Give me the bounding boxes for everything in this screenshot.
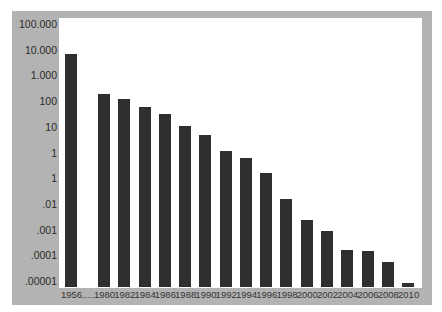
bar [402, 283, 414, 287]
bar [65, 54, 77, 287]
bar [199, 135, 211, 287]
bar [118, 99, 130, 287]
bar [362, 251, 374, 287]
x-tick-label: 2006 [358, 289, 379, 301]
x-tick-label: 1980 [94, 289, 115, 301]
x-tick-label: 2008 [378, 289, 399, 301]
x-tick-label: 2010 [398, 289, 419, 301]
x-tick-label: 2004 [337, 289, 358, 301]
y-tick-label: .001 [37, 224, 57, 236]
x-tick-label: 1998 [276, 289, 297, 301]
x-tick-label: 1988 [175, 289, 196, 301]
x-tick-label: 1984 [135, 289, 156, 301]
bar [179, 126, 191, 287]
bar [260, 173, 272, 287]
bar [220, 151, 232, 287]
x-tick-label: 1982 [114, 289, 135, 301]
bar [341, 250, 353, 287]
y-tick-label: 10.000 [25, 44, 57, 56]
bar [139, 107, 151, 287]
bar [280, 199, 292, 287]
x-tick-label: 2002 [317, 289, 338, 301]
y-tick-label: 100.000 [19, 18, 57, 30]
bar [159, 114, 171, 287]
y-tick-label: 10 [45, 121, 57, 133]
x-tick-label: 2000 [297, 289, 318, 301]
y-tick-label: 1.000 [31, 69, 57, 81]
y-tick-label: 100 [39, 95, 57, 107]
bar [98, 94, 110, 287]
y-tick-label: 1 [51, 172, 57, 184]
x-tick-label: 1990 [195, 289, 216, 301]
y-tick-label: .0001 [31, 249, 57, 261]
x-tick-label: 1996 [256, 289, 277, 301]
bar [382, 262, 394, 287]
y-tick-label: .00001 [25, 275, 57, 287]
x-tick-label: 1994 [236, 289, 257, 301]
bar [240, 158, 252, 287]
bar [301, 220, 313, 287]
x-tick-label: 1956...... [61, 289, 98, 301]
y-tick-label: 1 [51, 147, 57, 159]
x-tick-label: 1986 [155, 289, 176, 301]
y-tick-label: .01 [42, 198, 57, 210]
bar [321, 231, 333, 287]
x-tick-label: 1992 [216, 289, 237, 301]
